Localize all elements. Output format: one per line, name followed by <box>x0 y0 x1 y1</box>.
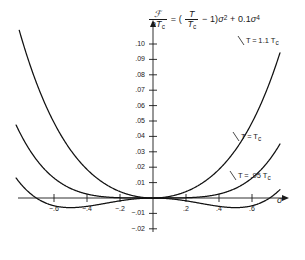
y-tick-label: .01 <box>119 179 145 186</box>
y-tick-label: −.02 <box>119 225 145 232</box>
equation-lhs-den-sub: c <box>162 23 165 30</box>
x-tick-label: .6 <box>241 205 263 212</box>
equation-lhs-denominator: aTc <box>149 20 167 30</box>
curve-series-2 <box>16 178 280 208</box>
y-tick-label: .09 <box>119 55 145 62</box>
y-tick-label: .10 <box>119 40 145 47</box>
equation-ratio-denominator: Tc <box>185 20 198 30</box>
curve-label-hot-sub: c <box>275 39 278 46</box>
x-axis-arrowhead <box>282 195 289 201</box>
equation-lhs-fraction: ℱ aTc <box>149 10 167 30</box>
label-leader-1 <box>233 132 239 141</box>
figure-container: ℱ aTc = ( T Tc − 1)σ2 + 0.1σ4 T = 1.1 Tc… <box>0 0 305 260</box>
equation-exponent-2: 2 <box>224 14 228 21</box>
equation-coefficient: 0.1 <box>238 14 251 24</box>
y-tick-label: .06 <box>119 102 145 109</box>
y-tick-label: .03 <box>119 148 145 155</box>
label-leader-lines <box>230 36 244 180</box>
axes-group <box>18 20 289 232</box>
label-leader-2 <box>230 171 236 180</box>
curve-label-critical: T = Tc <box>241 133 261 142</box>
curve-label-cold-text: T = .95 T <box>238 171 267 180</box>
equation-equals: = <box>171 14 176 24</box>
x-tick-label: −.6 <box>43 205 65 212</box>
equation-ratio-den-sub: c <box>193 23 196 30</box>
equation-paren-open: ( <box>179 14 182 24</box>
equation-exponent-4: 4 <box>256 14 260 21</box>
curve-label-hot: T = 1.1 Tc <box>246 37 279 46</box>
x-axis-label: σ <box>277 196 282 205</box>
curve-label-cold-sub: c <box>267 174 270 181</box>
x-tick-label: −.2 <box>109 205 131 212</box>
equation-ratio-fraction: T Tc <box>185 10 198 30</box>
x-tick-label: −.4 <box>76 205 98 212</box>
curve-label-critical-text: T = T <box>241 132 258 141</box>
equation-minus-one: − 1 <box>202 14 215 24</box>
curve-label-cold: T = .95 Tc <box>238 172 271 181</box>
x-tick-label: .2 <box>175 205 197 212</box>
y-tick-label: .07 <box>119 86 145 93</box>
y-tick-label: .04 <box>119 132 145 139</box>
x-tick-label: .4 <box>208 205 230 212</box>
chart-equation: ℱ aTc = ( T Tc − 1)σ2 + 0.1σ4 <box>148 10 260 30</box>
curve-label-hot-text: T = 1.1 T <box>246 36 275 45</box>
label-leader-0 <box>238 36 244 45</box>
y-tick-label: .08 <box>119 71 145 78</box>
curve-label-critical-sub: c <box>258 135 261 142</box>
y-tick-label: .02 <box>119 163 145 170</box>
y-tick-label: .05 <box>119 117 145 124</box>
equation-plus: + <box>230 14 235 24</box>
